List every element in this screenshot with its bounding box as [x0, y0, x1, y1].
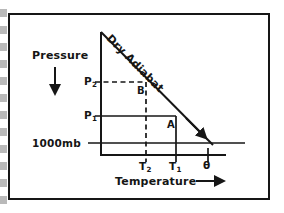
pressure-label-p2-sub: 2: [92, 80, 97, 89]
pressure-label-p2: P2: [84, 75, 97, 89]
x-tick-label-t1-sub: 1: [176, 165, 181, 174]
x-tick-label-theta: θ: [203, 159, 210, 171]
y-axis-title: Pressure: [32, 49, 88, 62]
pressure-label-p1-text: P: [84, 109, 92, 121]
x-tick-label-t2: T2: [139, 160, 151, 174]
pressure-label-1000mb: 1000mb: [32, 137, 81, 149]
x-tick-label-t1: T1: [169, 160, 181, 174]
figure-root: Pressure P2 P1 1000mb B A T2 T1 θ Temper…: [0, 0, 284, 213]
x-axis-title: Temperature: [115, 175, 196, 188]
pressure-label-p1: P1: [84, 109, 97, 123]
dry-adiabat-arrow: [186, 118, 202, 134]
pressure-label-p2-text: P: [84, 75, 92, 87]
point-label-a: A: [167, 119, 175, 130]
x-tick-label-t2-sub: 2: [146, 165, 151, 174]
point-label-b: B: [137, 85, 145, 96]
pressure-label-p1-sub: 1: [92, 114, 97, 123]
